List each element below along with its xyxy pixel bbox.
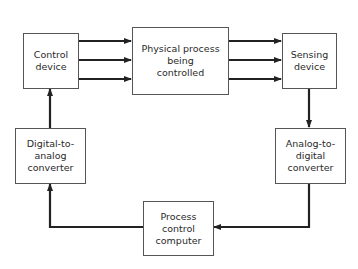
node-analog-to-digital-converter: Analog-to- digital converter [275, 128, 346, 184]
node-process-control-computer: Process control computer [143, 201, 214, 256]
node-label: Process control computer [156, 211, 202, 247]
node-label: Control device [34, 49, 68, 73]
node-physical-process: Physical process being controlled [132, 27, 229, 95]
node-sensing-device: Sensing device [282, 33, 337, 89]
edge-computer-to-dac [50, 184, 143, 227]
edge-process-to-sensing [228, 41, 281, 79]
node-control-device: Control device [23, 33, 79, 89]
node-label: Analog-to- digital converter [286, 138, 335, 174]
node-label: Physical process being controlled [141, 43, 219, 79]
edge-control-to-process [78, 41, 131, 79]
node-digital-to-analog-converter: Digital-to- analog converter [15, 128, 86, 184]
node-label: Digital-to- analog converter [27, 138, 74, 174]
node-label: Sensing device [291, 49, 329, 73]
edge-adc-to-computer [214, 183, 309, 227]
